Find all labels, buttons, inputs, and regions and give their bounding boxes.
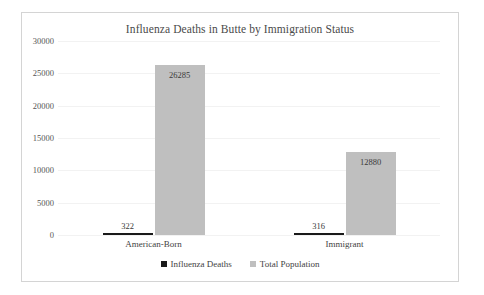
bar-value-label: 316 (312, 221, 325, 231)
chart-container: Influenza Deaths in Butte by Immigration… (21, 12, 459, 282)
gridline (58, 235, 440, 236)
bar-value-label: 26285 (169, 70, 190, 80)
bar-value-label: 322 (121, 221, 134, 231)
chart-title: Influenza Deaths in Butte by Immigration… (22, 23, 458, 35)
bar-influenza-deaths[interactable]: 322 (103, 233, 153, 235)
chart-legend: Influenza DeathsTotal Population (22, 259, 458, 269)
legend-swatch-icon (161, 261, 167, 267)
y-axis-tick-label: 15000 (33, 133, 54, 143)
bar-total-population[interactable]: 12880 (346, 152, 396, 235)
y-axis: 300002500020000150001000050000 (22, 41, 58, 235)
legend-item[interactable]: Total Population (250, 259, 320, 269)
legend-label: Influenza Deaths (171, 259, 232, 269)
bar-group: 32226285 (58, 41, 249, 235)
y-axis-tick-label: 5000 (37, 198, 54, 208)
x-axis-category-label: American-Born (58, 239, 249, 249)
bar-total-population[interactable]: 26285 (155, 65, 205, 235)
y-axis-tick-label: 20000 (33, 101, 54, 111)
plot-area: 3222628531612880 (58, 41, 440, 235)
y-axis-tick-label: 0 (50, 230, 54, 240)
y-axis-tick-label: 25000 (33, 68, 54, 78)
x-axis-category-label: Immigrant (249, 239, 440, 249)
legend-swatch-icon (250, 261, 256, 267)
bar-group: 31612880 (249, 41, 440, 235)
legend-label: Total Population (260, 259, 320, 269)
bar-influenza-deaths[interactable]: 316 (294, 233, 344, 235)
y-axis-tick-label: 30000 (33, 36, 54, 46)
y-axis-tick-label: 10000 (33, 165, 54, 175)
bar-value-label: 12880 (360, 157, 381, 167)
legend-item[interactable]: Influenza Deaths (161, 259, 232, 269)
